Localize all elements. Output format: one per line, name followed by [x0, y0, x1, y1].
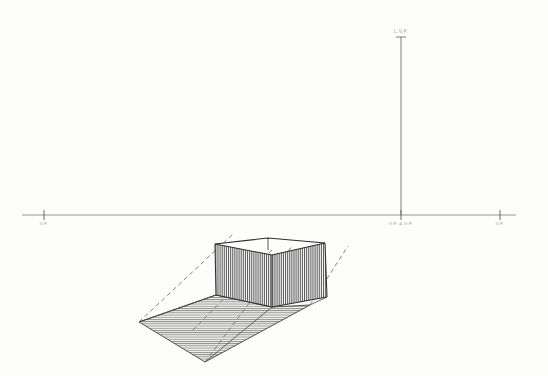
label-right-vp: V.P. — [496, 221, 505, 226]
label-top-vp: L.V.P. — [394, 29, 408, 34]
perspective-drawing-canvas: V.P. V.P. & V.P. V.P. L.V.P. — [0, 0, 548, 376]
vanishing-point-ticks — [44, 37, 500, 220]
label-left-vp: V.P. — [40, 221, 49, 226]
drawing-sheet: V.P. V.P. & V.P. V.P. L.V.P. — [0, 0, 548, 376]
right-face-hatch — [268, 238, 332, 314]
label-center-vp: V.P. & V.P. — [389, 221, 413, 226]
cast-shadow — [139, 295, 327, 362]
top-back-edges — [215, 238, 325, 244]
